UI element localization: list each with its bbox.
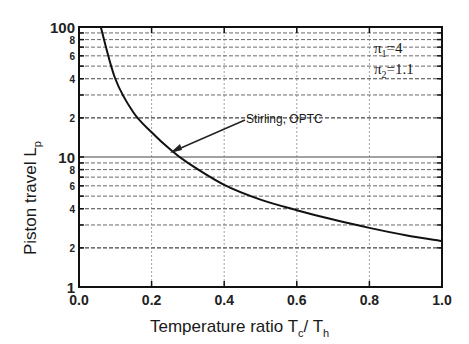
x-axis-title: Temperature ratio Tc/ Th [150,317,329,339]
x-tick-label: 0.4 [214,292,234,308]
y-tick-label: 2 [69,243,75,254]
y-tick-label: 8 [69,35,75,46]
y-tick-label: 8 [69,165,75,176]
arrowhead-icon [170,144,182,153]
y-tick-label: 2 [69,113,75,124]
y-tick-label: 4 [69,74,75,85]
x-tick-label: 0.2 [142,292,162,308]
curve-label: Stirling, OPTC [246,112,323,126]
x-tick-label: 0.8 [360,292,380,308]
y-tick-label: 6 [69,181,75,192]
y-tick-label: 6 [69,51,75,62]
chart: 0.00.20.40.60.81.0 12468102468100 Temper… [0,0,469,344]
x-tick-label: 0.6 [287,292,307,308]
x-tick-label: 1.0 [432,292,452,308]
y-axis-tick-labels: 12468102468100 [50,19,75,296]
y-axis-title: Piston travel Lp [21,141,43,255]
annotation-arrow-line [174,120,245,151]
parameter-pi2: π2=1.1 [374,61,414,80]
y-tick-label: 1 [67,279,75,296]
x-axis-tick-labels: 0.00.20.40.60.81.0 [69,292,452,308]
y-tick-label: 100 [50,19,75,36]
y-tick-label: 4 [69,204,75,215]
y-tick-label: 10 [58,149,75,166]
